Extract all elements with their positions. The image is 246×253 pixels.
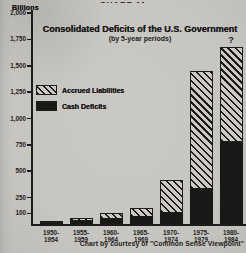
solid-black-swatch-icon <box>36 101 57 111</box>
y-axis-tick-label: 750 <box>2 142 26 148</box>
clipped-page-header-text: CHART 11 <box>100 0 147 3</box>
bar-accrued-segment <box>100 213 123 219</box>
bar-accrued-segment <box>220 47 243 142</box>
bar-annotation-question-mark: ? <box>215 35 246 45</box>
bar-cash-segment <box>100 219 123 224</box>
chart-caption: Chart by courtesy of "Common Sense Viewp… <box>80 240 244 247</box>
y-axis-tick-label: 1,750 <box>2 36 26 42</box>
legend-item-accrued-liabilities: Accrued Liabilities <box>36 85 124 95</box>
y-axis-tick-mark <box>27 91 32 93</box>
y-axis-tick-mark <box>27 170 32 172</box>
bar-cash-segment <box>130 217 153 224</box>
clipped-page-header: CHART 11 <box>0 0 246 3</box>
bar-cash-segment <box>190 189 213 224</box>
bar-accrued-segment <box>130 208 153 216</box>
y-axis-tick-mark <box>27 39 32 41</box>
y-axis-tick-mark <box>27 197 32 199</box>
y-axis-tick-label: 1,250 <box>2 89 26 95</box>
y-axis-tick-label: 500 <box>2 168 26 174</box>
y-axis-tick-mark <box>27 118 32 120</box>
y-axis-tick-label: 2,000 <box>2 10 26 16</box>
legend-label-cash: Cash Deficits <box>62 103 106 110</box>
x-axis-label: 1950-1954 <box>35 229 67 243</box>
legend: Accrued Liabilities Cash Deficits <box>36 85 124 117</box>
y-axis-tick-mark <box>27 144 32 146</box>
y-axis-tick-mark <box>27 12 32 14</box>
bar-accrued-segment <box>70 218 93 221</box>
y-axis-tick-label: 100 <box>2 210 26 216</box>
legend-item-cash-deficits: Cash Deficits <box>36 101 124 111</box>
bar-cash-segment <box>220 142 243 224</box>
y-axis-tick-mark <box>27 65 32 67</box>
y-axis-tick-label: 1,000 <box>2 116 26 122</box>
bar-cash-segment <box>70 221 93 224</box>
legend-label-accrued: Accrued Liabilities <box>62 87 124 94</box>
bar-accrued-segment <box>40 221 63 223</box>
y-axis-tick-mark <box>27 213 32 215</box>
scanned-chart-page: CHART 11 Billions Consolidated Deficits … <box>0 0 246 253</box>
bar-accrued-segment <box>160 180 183 214</box>
bar-cash-segment <box>160 213 183 224</box>
y-axis-tick-label: 250 <box>2 195 26 201</box>
chart-title: Consolidated Deficits of the U.S. Govern… <box>34 24 246 34</box>
hatched-swatch-icon <box>36 85 57 95</box>
y-axis-tick-label: 1,500 <box>2 63 26 69</box>
bar-accrued-segment <box>190 71 213 189</box>
